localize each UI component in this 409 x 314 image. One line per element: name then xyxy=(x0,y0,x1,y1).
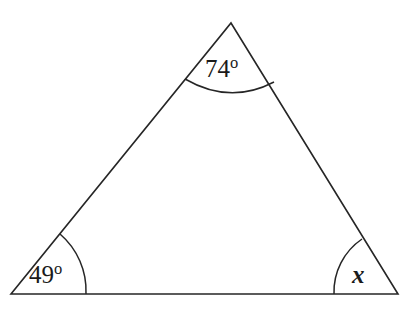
angle-label-bottom-left-value: 49 xyxy=(29,261,54,288)
diagram-canvas: 74o 49o x xyxy=(0,0,409,314)
degree-symbol-icon: o xyxy=(54,259,62,278)
angle-label-bottom-left: 49o xyxy=(29,262,62,287)
angle-label-bottom-right-value: x xyxy=(352,261,365,288)
degree-symbol-icon: o xyxy=(230,53,238,72)
angle-label-top: 74o xyxy=(205,56,238,81)
angle-label-top-value: 74 xyxy=(205,55,230,82)
angle-label-bottom-right: x xyxy=(352,262,365,287)
